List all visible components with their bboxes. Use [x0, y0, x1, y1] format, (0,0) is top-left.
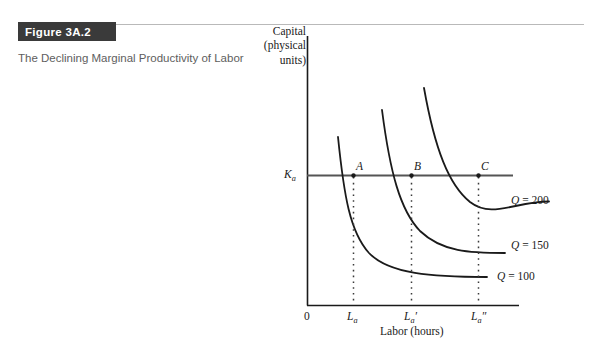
- isoquant-label-q200: Q = 200: [511, 194, 549, 206]
- x-axis-origin-label: 0: [304, 310, 310, 322]
- isoquant-curve-q200: [424, 88, 549, 209]
- capital-level-subscript: a: [292, 174, 296, 183]
- point-label-c: C: [481, 160, 489, 172]
- point-marker-b: [409, 173, 413, 177]
- y-axis-title-line1: Capital: [248, 24, 306, 38]
- figure-page: Figure 3A.2 The Declining Marginal Produ…: [0, 0, 603, 349]
- x-tick-label-la-double-prime: La″: [471, 310, 486, 325]
- capital-level-label: Ka: [284, 168, 296, 183]
- isoquant-label-q100: Q = 100: [497, 270, 535, 282]
- x-tick-label-la: La: [347, 310, 358, 325]
- point-marker-c: [476, 173, 480, 177]
- isoquant-curve-q150: [382, 110, 505, 253]
- point-label-a: A: [356, 160, 363, 172]
- isoquant-label-q150: Q = 150: [511, 239, 549, 251]
- y-axis-title-line3: units): [248, 53, 306, 67]
- point-label-b: B: [414, 160, 421, 172]
- y-axis-title-line2: (physical: [248, 38, 306, 52]
- y-axis-title: Capital (physical units): [248, 24, 306, 67]
- x-axis-title: Labor (hours): [380, 325, 444, 337]
- x-tick-label-la-prime: La′: [404, 310, 417, 325]
- capital-level-symbol: K: [284, 168, 292, 180]
- point-marker-a: [351, 173, 355, 177]
- isoquant-curve-q100: [338, 137, 487, 277]
